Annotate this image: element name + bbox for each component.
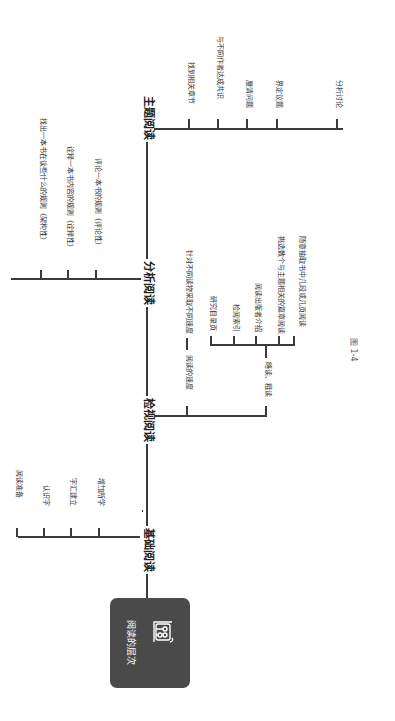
basic-bracket [18, 536, 115, 538]
level-analytical-label: 分析阅读 [143, 259, 154, 307]
syntopical-tick-0 [189, 119, 191, 129]
analytical-bracket-stem [91, 278, 141, 280]
skim-child-2: 阅读出版者介绍 [254, 283, 261, 332]
syntopical-tick-4 [337, 119, 339, 129]
syntopical-bracket-stem [154, 128, 190, 130]
skim-tick-1 [234, 336, 236, 345]
inspect-tick-skim [266, 406, 268, 416]
basic-tick-3 [99, 528, 101, 537]
syntopical-tick-1 [218, 119, 220, 129]
basic-tick-0 [17, 528, 19, 537]
main-spine [147, 95, 149, 600]
basic-child-2: 字汇建立 [69, 478, 76, 506]
level-syntopical-label: 主题阅读 [143, 94, 154, 142]
skim-tick-2 [256, 336, 258, 345]
basic-child-0: 阅读准备 [15, 470, 22, 498]
inspect-bracket-stem [154, 415, 173, 417]
basic-child-1: 认识字 [42, 485, 49, 506]
inspect-speed-label: 阅读的速度 [185, 355, 192, 390]
inspect-skim-label: 略读、粗读 [264, 362, 271, 397]
analytical-child-0: 找出一本书在谈些什么的规则（架构性） [39, 118, 46, 244]
analytical-tick-0 [41, 270, 43, 279]
analytical-child-2: 评论一本书的规则（评论性） [94, 158, 101, 249]
syntopical-child-2: 厘清问题 [245, 80, 252, 108]
reading-books-icon [150, 618, 176, 646]
analytical-tick-1 [68, 270, 70, 279]
analytical-bracket [11, 278, 91, 280]
basic-child-3: 增加所学 [97, 478, 104, 506]
skim-bracket [210, 344, 295, 346]
root-node: 阅读的层次 [110, 598, 190, 688]
skim-child-0: 研究目录页 [209, 296, 216, 331]
syntopical-child-1: 与不同作者达成共识 [216, 36, 223, 99]
syntopical-tick-3 [277, 119, 279, 129]
basic-bracket-stem [115, 536, 140, 538]
skim-tick-0 [211, 336, 213, 345]
mind-map-canvas: 阅读的层次 基础阅读 阅读准备 认识字 字汇建立 增加所学 检视阅读 阅读的速度… [0, 0, 395, 721]
analytical-child-1: 诠释一本书内容的规则（诠释性） [66, 146, 73, 251]
level-inspectional-label: 检视阅读 [143, 396, 154, 444]
inspect-speed-detail: 针对不同读物采取不同速度 [185, 250, 192, 334]
skim-child-4: 随意抽取书中几段或几页阅读 [298, 236, 305, 327]
inspect-speed-dash [187, 338, 189, 350]
inspect-tick-speed [187, 406, 189, 416]
skim-tick-3 [279, 336, 281, 345]
syntopical-child-4: 分析讨论 [335, 80, 342, 108]
syntopical-child-0: 找到相关章节 [187, 62, 194, 104]
figure-caption: 图 1-4 [349, 338, 360, 362]
basic-tick-1 [44, 528, 46, 537]
skim-tick-4 [294, 336, 296, 345]
syntopical-child-3: 界定议题 [275, 80, 282, 108]
syntopical-bracket [189, 128, 343, 130]
skim-child-1: 检阅索引 [232, 304, 239, 332]
basic-connector [142, 510, 143, 512]
level-basic-label: 基础阅读 [143, 526, 154, 574]
root-label: 阅读的层次 [125, 620, 138, 665]
basic-tick-2 [71, 528, 73, 537]
skim-child-3: 挑选数个与主题相关的篇章阅读 [277, 236, 284, 334]
skim-stem [266, 344, 268, 358]
analytical-tick-2 [96, 270, 98, 279]
syntopical-tick-2 [247, 119, 249, 129]
